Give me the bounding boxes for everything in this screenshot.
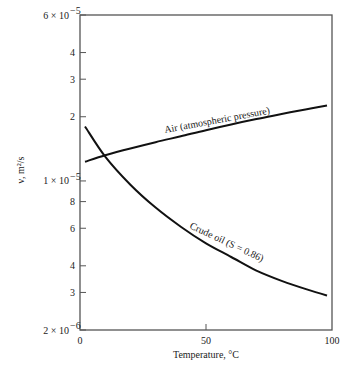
y-tick-label: 1 × 10	[43, 175, 69, 186]
y-tick-label: 4	[70, 260, 75, 271]
y-tick-exponent: −5	[70, 5, 81, 16]
crude-oil-curve	[85, 127, 327, 296]
y-tick-label: 8	[70, 196, 75, 207]
y-axis-title: ν, m²/s	[15, 156, 26, 183]
y-tick-exponent: −6	[70, 320, 81, 331]
y-tick-exponent: −5	[70, 171, 81, 182]
y-tick-label: 2 × 10	[43, 325, 69, 336]
air-curve	[85, 105, 327, 161]
y-tick-label: 4	[70, 47, 75, 58]
x-axis-ticks: 050100	[78, 324, 340, 346]
y-tick-label: 6 × 10	[43, 10, 69, 21]
y-tick-label: 3	[70, 287, 75, 298]
y-tick-label: 3	[70, 74, 75, 85]
x-tick-label: 0	[78, 335, 83, 346]
y-tick-label: 2	[70, 111, 75, 122]
y-tick-label: 6	[70, 223, 75, 234]
oil-curve-label: Crude oil (S = 0.86)	[188, 220, 266, 265]
x-tick-label: 100	[325, 335, 340, 346]
viscosity-chart: 6 × 10−54321 × 10−586432 × 10−6 050100 T…	[0, 0, 345, 370]
x-tick-label: 50	[201, 335, 211, 346]
x-axis-title: Temperature, °C	[173, 349, 239, 360]
data-curves	[85, 105, 327, 295]
